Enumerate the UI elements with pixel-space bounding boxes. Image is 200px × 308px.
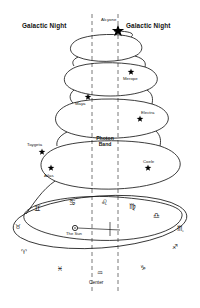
center-label: Center [89, 281, 103, 286]
zodiac-aquarius: ♒ [97, 270, 103, 277]
diagram-vector-layer [0, 0, 200, 308]
zodiac-capricorn: ♑ [140, 265, 146, 272]
star-label-merope: Merope [123, 77, 138, 81]
star-label-maya: Maya [75, 102, 86, 106]
galactic-night-right-label: Galactic Night [126, 23, 170, 29]
zodiac-pisces: ♓ [57, 266, 63, 273]
photon-band-label: Photon Band [94, 135, 116, 148]
photon-band-line-1: Photon [96, 135, 114, 141]
star-label-electra: Electra [141, 111, 154, 115]
star-glyph-taygeta [39, 149, 46, 155]
zodiac-scorpio: ♏ [177, 225, 184, 233]
galactic-night-left-label: Galactic Night [22, 23, 66, 29]
star-label-coele: Coele [143, 160, 154, 164]
zodiac-gemini: ♊ [34, 205, 41, 213]
photon-band-boundaries [92, 14, 118, 292]
zodiac-aries: ♈ [21, 249, 27, 256]
zodiac-leo: ♌ [101, 199, 108, 207]
zodiac-libra: ♎ [153, 212, 160, 220]
zodiac-sagittarius: ♐ [172, 244, 178, 251]
star-glyph-coele [145, 165, 152, 171]
star-label-atlas: Atlas [44, 174, 54, 178]
the-sun-label: The Sun [66, 232, 82, 236]
photon-band-line-2: Band [99, 141, 112, 147]
pleiades-star-glyphs [39, 25, 152, 171]
zodiac-cancer: ♋ [69, 199, 76, 207]
star-glyph-atlas [48, 165, 55, 171]
zodiac-virgo: ♍ [129, 203, 136, 211]
photon-band-diagram: Galactic Night Galactic Night Photon Ban… [0, 0, 200, 308]
zodiac-taurus: ♉ [15, 224, 21, 231]
star-label-taygeta: Taygeta [27, 143, 42, 147]
star-glyph-electra [137, 116, 144, 122]
star-glyph-merope [128, 69, 135, 75]
star-label-alcyone: Alcyone [101, 18, 116, 22]
